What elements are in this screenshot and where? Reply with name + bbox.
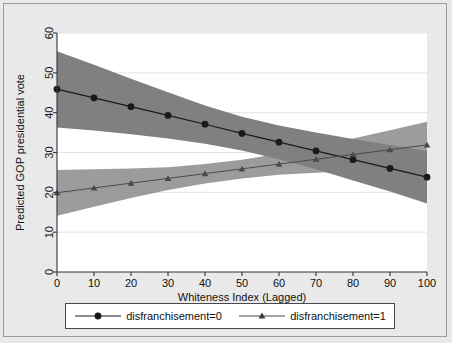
x-tick-label: 70 bbox=[310, 277, 322, 289]
x-tick-label: 40 bbox=[199, 277, 211, 289]
data-point bbox=[313, 148, 320, 155]
y-tick-label: 20 bbox=[43, 186, 55, 198]
legend-label-0: disfranchisement=0 bbox=[126, 310, 222, 322]
y-axis-title: Predicted GOP presidential vote bbox=[14, 74, 26, 231]
y-tick-label: 30 bbox=[43, 146, 55, 158]
y-tick-label: 0 bbox=[43, 269, 55, 275]
predicted-gop-vote-chart: 01020304050600102030405060708090100White… bbox=[0, 0, 452, 343]
x-tick-label: 90 bbox=[384, 277, 396, 289]
y-tick-label: 50 bbox=[43, 67, 55, 79]
x-tick-label: 20 bbox=[125, 277, 137, 289]
circle-marker-icon bbox=[74, 310, 122, 322]
x-tick-label: 30 bbox=[162, 277, 174, 289]
data-point bbox=[165, 112, 172, 119]
chart-legend: disfranchisement=0 disfranchisement=1 bbox=[65, 303, 395, 329]
y-tick-label: 40 bbox=[43, 107, 55, 119]
data-point bbox=[128, 103, 135, 110]
data-point bbox=[387, 165, 394, 172]
legend-item-disfranchisement-1: disfranchisement=1 bbox=[238, 310, 386, 322]
x-tick-label: 80 bbox=[347, 277, 359, 289]
data-point bbox=[350, 156, 357, 163]
legend-label-1: disfranchisement=1 bbox=[290, 310, 386, 322]
legend-item-disfranchisement-0: disfranchisement=0 bbox=[74, 310, 222, 322]
triangle-marker-icon bbox=[238, 310, 286, 322]
x-tick-label: 100 bbox=[418, 277, 436, 289]
data-point bbox=[239, 130, 246, 137]
x-tick-label: 50 bbox=[236, 277, 248, 289]
data-point bbox=[91, 95, 98, 102]
chart-root: 01020304050600102030405060708090100White… bbox=[0, 0, 452, 343]
x-tick-label: 0 bbox=[54, 277, 60, 289]
x-tick-label: 10 bbox=[88, 277, 100, 289]
x-tick-label: 60 bbox=[273, 277, 285, 289]
y-tick-label: 10 bbox=[43, 226, 55, 238]
data-point bbox=[276, 139, 283, 146]
x-axis-title: Whiteness Index (Lagged) bbox=[178, 291, 306, 303]
y-tick-label: 60 bbox=[43, 27, 55, 39]
data-point bbox=[424, 174, 431, 181]
data-point bbox=[202, 121, 209, 128]
